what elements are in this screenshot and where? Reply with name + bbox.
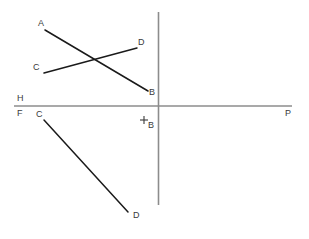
label-f-axis: F — [17, 109, 23, 118]
label-d-upper: D — [138, 38, 145, 47]
label-d-lower: D — [133, 211, 140, 220]
label-b-origin: B — [148, 121, 154, 130]
geometry-figure — [0, 0, 309, 239]
label-p-axis: P — [285, 109, 291, 118]
label-c-upper: C — [33, 63, 40, 72]
diagram-canvas: A D C B H F C B P D — [0, 0, 309, 239]
label-a-upper: A — [38, 19, 44, 28]
segment-ab-upper — [45, 30, 148, 91]
label-b-upper: B — [149, 88, 155, 97]
segment-cd-lower — [44, 120, 128, 212]
point-b-crosshair-icon — [140, 116, 148, 124]
label-c-lower: C — [36, 110, 43, 119]
segment-cd-upper — [44, 48, 137, 73]
label-h-axis: H — [17, 94, 24, 103]
